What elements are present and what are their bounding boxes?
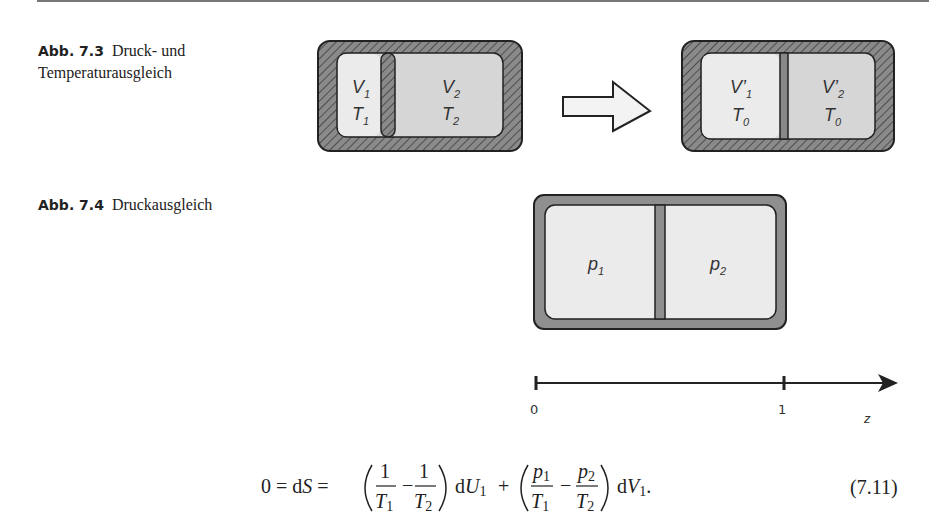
svg-text:T2: T2 — [576, 490, 594, 514]
svg-text:T1: T1 — [375, 490, 393, 514]
svg-text:dV1.: dV1. — [617, 475, 651, 499]
svg-text:1: 1 — [778, 402, 786, 417]
figure-7-4-diagram: p1 p2 0 1 z — [500, 185, 929, 445]
svg-text:1: 1 — [380, 460, 390, 482]
svg-text:T2: T2 — [414, 490, 432, 514]
svg-text:p1: p1 — [531, 460, 550, 484]
svg-text:dU1: dU1 — [455, 475, 486, 499]
container-after: V’1 T0 V’2 T0 — [682, 41, 894, 151]
figure-7-3-diagram: V1 T1 V2 T2 V’1 T0 V’2 T0 — [300, 35, 929, 165]
svg-text:0 = dS =: 0 = dS = — [261, 475, 329, 497]
svg-text:0: 0 — [530, 402, 538, 417]
container-before: V1 T1 V2 T2 — [318, 41, 522, 151]
equation-7-11: 0 = dS = 1 T1 − 1 T2 dU1 + p1 T1 − p2 T2… — [0, 455, 929, 518]
svg-text:z: z — [863, 411, 871, 426]
svg-text:+: + — [498, 475, 509, 497]
svg-text:p2: p2 — [576, 460, 595, 484]
svg-text:−: − — [560, 474, 571, 496]
z-axis: 0 1 z — [530, 374, 898, 426]
figure-7-3-caption: Abb. 7.3Druck- und Temperaturausgleich — [38, 40, 185, 83]
svg-text:T1: T1 — [531, 490, 549, 514]
svg-text:−: − — [402, 474, 413, 496]
arrow-right-icon — [563, 82, 650, 131]
figure-7-4-caption: Abb. 7.4Druckausgleich — [38, 194, 212, 216]
figure-label: Abb. 7.4 — [38, 197, 104, 213]
svg-text:1: 1 — [419, 460, 429, 482]
figure-label: Abb. 7.3 — [38, 43, 104, 59]
equation-number: (7.11) — [850, 476, 898, 499]
top-rule — [37, 0, 929, 2]
